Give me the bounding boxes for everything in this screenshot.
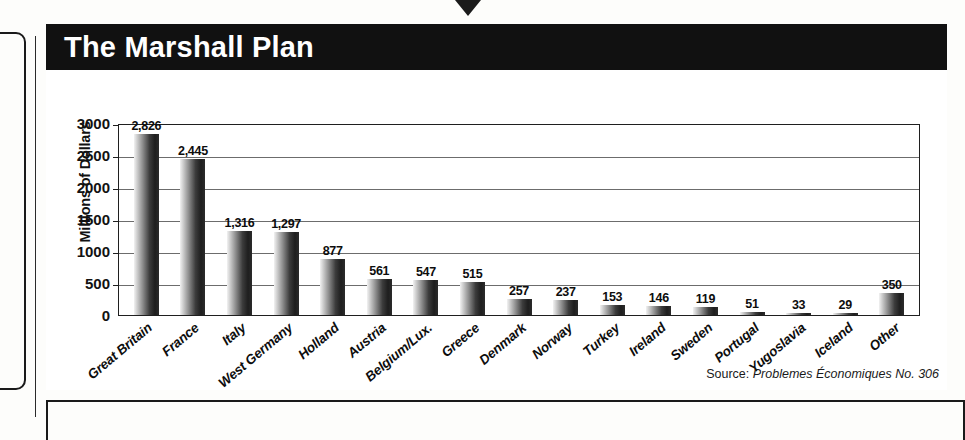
x-tick-label: France: [159, 320, 202, 359]
page-title: The Marshall Plan: [64, 31, 314, 64]
source-text: Problemes Économiques No. 306: [753, 367, 939, 381]
bar-value-label: 119: [696, 292, 715, 306]
x-tick-label: Iceland: [811, 320, 855, 360]
bar-slot: 119: [682, 125, 729, 315]
source-note: Source: Problemes Économiques No. 306: [706, 367, 939, 381]
bar-value-label: 1,297: [271, 217, 301, 231]
y-axis-ticks: 300025002000150010005000: [52, 124, 110, 316]
bar: 515: [460, 282, 485, 315]
bar-value-label: 2,826: [131, 119, 161, 133]
bar-series: 2,8262,4451,3161,29787756154751525723715…: [119, 125, 919, 315]
bar-slot: 2,826: [123, 125, 170, 315]
bottom-frame-box: [46, 400, 965, 440]
bar: 1,297: [274, 232, 299, 315]
bar-slot: 33: [775, 125, 822, 315]
bar: 237: [553, 300, 578, 315]
bar: 2,445: [180, 159, 205, 315]
bar-slot: 2,445: [170, 125, 217, 315]
source-label: Source:: [706, 367, 749, 381]
bar-value-label: 51: [745, 297, 758, 311]
bar-value-label: 1,316: [225, 216, 255, 230]
bar-slot: 877: [309, 125, 356, 315]
y-tick-label: 0: [56, 307, 110, 324]
vertical-divider: [35, 36, 36, 417]
y-tick-label: 3000: [56, 115, 110, 132]
x-tick-label: Greece: [438, 320, 482, 360]
bar: 33: [786, 313, 811, 315]
bar-slot: 561: [356, 125, 403, 315]
x-tick-label: Austria: [344, 320, 388, 360]
bar-slot: 237: [542, 125, 589, 315]
bar-value-label: 237: [556, 285, 576, 299]
down-arrow-icon: [455, 0, 481, 16]
bar-value-label: 153: [602, 290, 622, 304]
bar-slot: 1,316: [216, 125, 263, 315]
bar: 561: [367, 279, 392, 315]
bar-slot: 29: [822, 125, 869, 315]
bar: 2,826: [134, 134, 159, 315]
y-tick-label: 1000: [56, 243, 110, 260]
bar-slot: 153: [589, 125, 636, 315]
bar-value-label: 547: [416, 265, 436, 279]
bar-slot: 1,297: [263, 125, 310, 315]
marshall-plan-figure: The Marshall Plan Millions of Dollars 30…: [46, 24, 947, 390]
bar: 119: [693, 307, 718, 315]
y-tick-label: 1500: [56, 211, 110, 228]
x-tick-label: Denmark: [476, 320, 529, 368]
bar-value-label: 350: [882, 278, 902, 292]
bar-value-label: 515: [462, 267, 482, 281]
left-side-panel: [0, 32, 26, 390]
bar: 146: [646, 306, 671, 315]
bar: 350: [879, 293, 904, 315]
plot-area: 2,8262,4451,3161,29787756154751525723715…: [118, 124, 920, 316]
bar-value-label: 29: [839, 298, 852, 312]
x-tick-label: Holland: [295, 320, 341, 362]
bar-slot: 515: [449, 125, 496, 315]
x-tick-label: Italy: [219, 320, 249, 348]
bar-slot: 257: [496, 125, 543, 315]
x-tick-label: Norway: [529, 320, 575, 362]
bar-slot: 51: [729, 125, 776, 315]
x-tick-label: Sweden: [668, 320, 716, 364]
bar-slot: 350: [869, 125, 916, 315]
x-tick-label: Turkey: [580, 320, 622, 359]
bar: 29: [833, 313, 858, 315]
bar: 547: [413, 280, 438, 315]
bar: 51: [740, 312, 765, 315]
bar-slot: 146: [636, 125, 683, 315]
bar: 1,316: [227, 231, 252, 315]
bar-value-label: 561: [369, 264, 389, 278]
x-tick-label: Great Britain: [85, 320, 155, 382]
figure-title-bar: The Marshall Plan: [46, 24, 947, 70]
bar-value-label: 33: [792, 298, 805, 312]
bar: 153: [600, 305, 625, 315]
bar-value-label: 146: [649, 291, 669, 305]
bar: 877: [320, 259, 345, 315]
bar-value-label: 2,445: [178, 144, 208, 158]
x-tick-label: Other: [866, 320, 902, 354]
y-tick-label: 500: [56, 275, 110, 292]
bar-value-label: 257: [509, 284, 529, 298]
x-tick-label: Ireland: [626, 320, 668, 359]
bar: 257: [507, 299, 532, 315]
chart-body: Millions of Dollars 30002500200015001000…: [46, 70, 947, 390]
bar-slot: 547: [403, 125, 450, 315]
y-tick-label: 2000: [56, 179, 110, 196]
bar-value-label: 877: [323, 244, 343, 258]
y-tick-label: 2500: [56, 147, 110, 164]
